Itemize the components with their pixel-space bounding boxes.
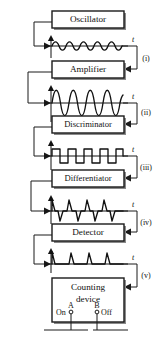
stage-label-v: (v) [141,271,151,280]
differentiator-label: Differentiator [64,173,111,183]
wave5-axis-label: t [132,253,135,262]
wire-amplifier-loop [28,72,52,103]
wave1-axis-label: t [132,35,135,44]
terminal-a-contact[interactable] [69,310,73,314]
wave1-axis-arrowhead [48,35,54,41]
wire-discriminator-loop [34,127,52,156]
stage-label-iii: (iii) [140,163,152,172]
wave-spikes-unipolar [52,252,123,264]
discriminator-label: Discriminator [64,119,112,129]
stage-label-i: (i) [142,54,150,63]
switch-off-label: Off [101,308,112,317]
switch-on-label: On [56,308,66,317]
wave2-axis-arrowhead [48,85,54,91]
stage-label-iv: (iv) [140,218,152,227]
wave2-axis-label: t [132,92,135,101]
counting-device-label-line1: Counting [71,282,106,292]
terminal-b-contact[interactable] [95,310,99,314]
wave4-axis-arrowhead [48,195,54,201]
block-diagram-svg: Oscillator t (i) Amplifier t (ii) [0,0,162,340]
wire-detector-loop [34,235,52,264]
stage-counting-device: Counting device A On B Off [44,278,128,330]
wave4-axis-label: t [132,200,135,209]
detector-label: Detector [72,227,104,237]
figure-canvas: Oscillator t (i) Amplifier t (ii) [0,0,162,340]
wire-differentiator-loop [31,181,52,211]
wave5-axis-arrowhead [48,248,54,254]
wire-oscillator-loop [34,22,52,46]
wave3-axis-label: t [132,145,135,154]
stage-label-ii: (ii) [141,108,151,117]
terminal-a-label: A [68,301,74,310]
amplifier-label: Amplifier [70,64,106,74]
oscillator-label: Oscillator [70,14,106,24]
wave3-axis-arrowhead [48,140,54,146]
terminal-b-label: B [94,301,99,310]
